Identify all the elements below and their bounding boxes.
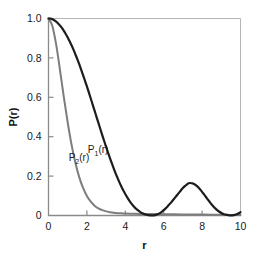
y-tick-label: 0.6 [27,91,42,103]
curve-label-p1: P1(r) [88,144,109,157]
series-line-p2 [49,19,241,216]
axis-spines [49,19,241,216]
svg-text:P1(r): P1(r) [88,144,109,157]
svg-text:P2(r): P2(r) [69,152,90,165]
x-tick-label: 2 [84,220,90,232]
chart-svg: 00.20.40.60.81.00246810P2(r)P1(r)rP(r) [0,0,259,260]
y-tick-label: 1.0 [27,12,42,24]
y-axis-title: P(r) [7,107,19,126]
x-tick-label: 0 [46,220,52,232]
y-tick-label: 0 [36,209,42,221]
chart-figure: 00.20.40.60.81.00246810P2(r)P1(r)rP(r) [0,0,259,260]
y-tick-label: 0.4 [27,130,42,142]
series-line-p1 [49,19,241,216]
x-tick-label: 4 [122,220,128,232]
x-tick-label: 8 [199,220,205,232]
y-tick-label: 0.2 [27,170,42,182]
curve-label-p2: P2(r) [69,152,90,165]
x-tick-label: 10 [235,220,247,232]
plot-frame [49,19,241,216]
x-axis-title: r [142,239,147,251]
x-tick-label: 6 [161,220,167,232]
y-tick-label: 0.8 [27,52,42,64]
